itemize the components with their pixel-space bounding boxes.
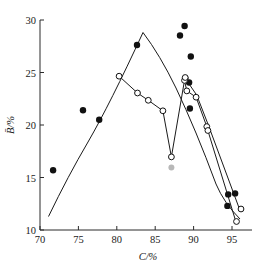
y-tick-label-30: 30 <box>26 15 37 26</box>
data-point-open <box>145 97 151 103</box>
data-point-filled <box>50 167 56 173</box>
chart-figure: 30 25 20 15 10 70 75 80 85 90 95 C/% B̄/… <box>0 0 262 269</box>
data-point-filled <box>232 190 238 196</box>
open-series-descending-line <box>119 76 171 157</box>
data-point-open <box>182 75 188 81</box>
axes <box>40 20 252 230</box>
data-point-open <box>234 219 240 225</box>
data-point-filled <box>224 203 230 209</box>
y-tick-label-20: 20 <box>26 120 37 131</box>
filled-points-group <box>50 23 238 209</box>
data-point-filled <box>181 23 187 29</box>
y-tick-label-25: 25 <box>26 68 37 79</box>
y-axis-ticks <box>40 20 44 230</box>
data-point-open <box>135 90 141 96</box>
faint-data-point <box>168 164 174 170</box>
data-point-filled <box>225 191 231 197</box>
x-axis-tick-labels: 70 75 80 85 90 95 <box>35 234 238 245</box>
data-point-open <box>169 154 175 160</box>
x-axis-ticks <box>40 226 232 230</box>
data-point-filled <box>96 117 102 123</box>
data-point-open <box>205 128 211 134</box>
data-point-open <box>193 94 199 100</box>
y-axis-tick-labels: 30 25 20 15 10 <box>26 15 37 236</box>
data-point-filled <box>188 53 194 59</box>
data-point-filled <box>134 42 140 48</box>
open-series-inner-tail-line <box>185 80 237 222</box>
data-point-filled <box>187 105 193 111</box>
data-point-open <box>116 73 122 79</box>
x-axis-title: C/% <box>139 251 158 262</box>
y-axis-title: B̄/% <box>5 116 16 134</box>
data-point-open <box>238 206 244 212</box>
data-point-open <box>160 108 166 114</box>
scatter-plot: 30 25 20 15 10 70 75 80 85 90 95 C/% B̄/… <box>0 0 262 269</box>
faint-point-group <box>168 164 174 170</box>
x-tick-label-90: 90 <box>188 234 199 245</box>
x-tick-label-70: 70 <box>35 234 46 245</box>
x-tick-label-95: 95 <box>227 234 238 245</box>
x-tick-label-85: 85 <box>150 234 161 245</box>
y-tick-label-15: 15 <box>26 173 37 184</box>
data-point-filled <box>177 32 183 38</box>
parabolic-fit-curve <box>49 33 241 220</box>
x-tick-label-75: 75 <box>73 234 84 245</box>
data-point-filled <box>80 107 86 113</box>
x-tick-label-80: 80 <box>112 234 123 245</box>
data-point-open <box>184 88 190 94</box>
